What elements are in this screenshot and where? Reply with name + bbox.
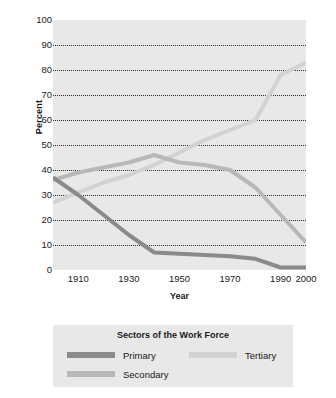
legend-label-secondary: Secondary (123, 369, 168, 380)
y-tick-100: 100 (24, 15, 52, 25)
x-axis-label: Year (53, 291, 306, 301)
y-tick-40: 40 (24, 165, 52, 175)
y-tick-10: 10 (24, 240, 52, 250)
series-line-primary (53, 178, 306, 268)
y-tick-90: 90 (24, 40, 52, 50)
legend-label-primary: Primary (123, 350, 156, 361)
x-tick-1910: 1910 (58, 274, 98, 284)
plot-area (53, 20, 306, 270)
y-tick-80: 80 (24, 65, 52, 75)
line-chart: Percent 0102030405060708090100 191019301… (0, 0, 336, 310)
y-tick-70: 70 (24, 90, 52, 100)
x-tick-2000: 2000 (286, 274, 326, 284)
legend-label-tertiary: Tertiary (245, 350, 276, 361)
series-lines (53, 20, 306, 270)
legend-item-secondary: Secondary (67, 368, 168, 380)
y-tick-50: 50 (24, 140, 52, 150)
chart-legend: Sectors of the Work Force PrimaryTertiar… (53, 325, 293, 387)
series-line-secondary (53, 155, 306, 243)
legend-title: Sectors of the Work Force (53, 330, 293, 340)
legend-item-tertiary: Tertiary (189, 349, 276, 361)
legend-swatch-tertiary (189, 352, 237, 358)
x-tick-1970: 1970 (210, 274, 250, 284)
legend-item-primary: Primary (67, 349, 156, 361)
x-tick-1930: 1930 (109, 274, 149, 284)
legend-swatch-primary (67, 352, 115, 358)
y-tick-20: 20 (24, 215, 52, 225)
y-tick-60: 60 (24, 115, 52, 125)
y-tick-0: 0 (24, 265, 52, 275)
x-tick-1950: 1950 (160, 274, 200, 284)
legend-swatch-secondary (67, 371, 115, 377)
series-line-tertiary (53, 63, 306, 203)
y-tick-30: 30 (24, 190, 52, 200)
